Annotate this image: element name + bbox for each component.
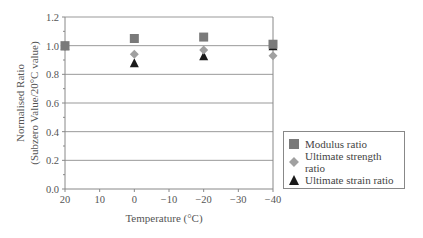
- svg-text:0.2: 0.2: [46, 155, 59, 166]
- legend-label: Ultimate strength ratio: [305, 150, 404, 174]
- svg-text:0.4: 0.4: [46, 127, 60, 138]
- svg-text:−40: −40: [265, 194, 281, 205]
- svg-text:0: 0: [132, 194, 137, 205]
- legend-label: Ultimate strain ratio: [305, 174, 394, 186]
- y-axis-title-line2: (Subzero Value/20°C value): [28, 41, 41, 165]
- square-marker-icon: [288, 138, 300, 150]
- x-axis-title: Temperature (°C): [125, 212, 203, 225]
- svg-text:1.0: 1.0: [46, 41, 59, 52]
- chart-plot: 0.00.20.40.60.81.01.2 20100−10−20−30−40 …: [0, 0, 423, 238]
- svg-text:−30: −30: [230, 194, 246, 205]
- x-axis-ticks: 20100−10−20−30−40: [60, 189, 281, 205]
- svg-text:1.2: 1.2: [46, 12, 59, 23]
- svg-text:−20: −20: [195, 194, 211, 205]
- y-axis-title-line1: Normalised Ratio: [14, 64, 26, 142]
- svg-text:0.8: 0.8: [46, 69, 59, 80]
- svg-text:10: 10: [94, 194, 105, 205]
- triangle-marker-icon: [288, 174, 300, 186]
- data-points: [61, 33, 278, 68]
- svg-text:20: 20: [60, 194, 71, 205]
- legend-label: Modulus ratio: [305, 138, 367, 150]
- legend-item-strain: Ultimate strain ratio: [288, 171, 404, 189]
- y-axis-ticks: 0.00.20.40.60.81.01.2: [46, 12, 65, 195]
- legend-item-strength: Ultimate strength ratio: [288, 153, 404, 171]
- svg-text:−10: −10: [161, 194, 177, 205]
- legend: Modulus ratio Ultimate strength ratio Ul…: [283, 131, 405, 189]
- gridlines: [65, 17, 273, 160]
- svg-text:0.6: 0.6: [46, 98, 59, 109]
- diamond-marker-icon: [288, 156, 300, 168]
- svg-text:0.0: 0.0: [46, 184, 59, 195]
